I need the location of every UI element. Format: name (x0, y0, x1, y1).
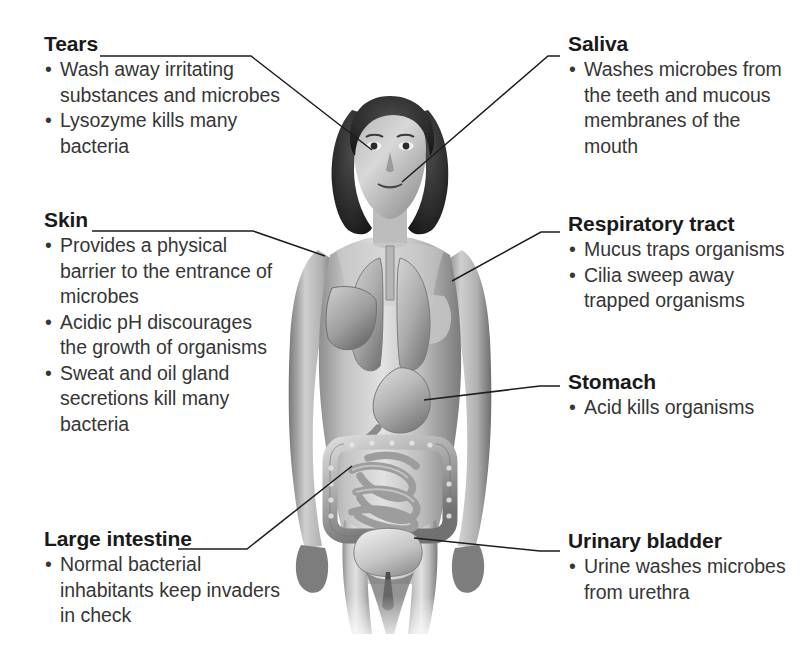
callout-bullets-respiratory-tract: •Mucus traps organisms •Cilia sweep away… (568, 237, 798, 314)
callout-bullets-tears: •Wash away irritating substances and mic… (44, 57, 294, 159)
bullet-glyph: • (569, 57, 576, 83)
bullet-item: •Cilia sweep away trapped organisms (568, 263, 798, 314)
bullet-glyph: • (569, 237, 576, 263)
bullet-item: •Washes microbes from the teeth and muco… (568, 57, 796, 159)
bullet-text: Provides a physical barrier to the entra… (60, 234, 272, 307)
callout-stomach: Stomach •Acid kills organisms (568, 371, 798, 421)
bullet-item: •Acidic pH discourages the growth of org… (44, 310, 279, 361)
bullet-item: •Lysozyme kills many bacteria (44, 108, 294, 159)
trachea (386, 246, 394, 300)
callout-title-respiratory-tract: Respiratory tract (568, 213, 798, 235)
bullet-text: Wash away irritating substances and micr… (60, 58, 280, 106)
callout-title-large-intestine: Large intestine (44, 528, 294, 550)
bullet-text: Urine washes microbes from urethra (584, 555, 786, 603)
callout-saliva: Saliva •Washes microbes from the teeth a… (568, 33, 796, 159)
bullet-item: •Acid kills organisms (568, 395, 798, 421)
callout-title-saliva: Saliva (568, 33, 796, 55)
bullet-text: Normal bacterial inhabitants keep invade… (60, 553, 280, 626)
bullet-glyph: • (569, 554, 576, 580)
callout-urinary-bladder: Urinary bladder •Urine washes microbes f… (568, 530, 796, 605)
bullet-text: Washes microbes from the teeth and mucou… (584, 58, 782, 157)
bullet-text: Acid kills organisms (584, 396, 754, 418)
hand-left (296, 545, 328, 593)
callout-bullets-skin: •Provides a physical barrier to the entr… (44, 233, 279, 437)
diagram-page: Tears •Wash away irritating substances a… (0, 0, 800, 670)
bullet-text: Mucus traps organisms (584, 238, 785, 260)
bullet-glyph: • (45, 361, 52, 387)
body-figure (270, 96, 530, 670)
urinary-bladder-organ (354, 528, 422, 576)
bullet-glyph: • (569, 395, 576, 421)
bullet-text: Cilia sweep away trapped organisms (584, 264, 745, 312)
bottom-fade (270, 596, 530, 670)
bullet-item: •Normal bacterial inhabitants keep invad… (44, 552, 294, 629)
bullet-text: Acidic pH discourages the growth of orga… (60, 311, 267, 359)
callout-bullets-large-intestine: •Normal bacterial inhabitants keep invad… (44, 552, 294, 629)
callout-respiratory-tract: Respiratory tract •Mucus traps organisms… (568, 213, 798, 314)
callout-bullets-saliva: •Washes microbes from the teeth and muco… (568, 57, 796, 159)
bullet-item: •Wash away irritating substances and mic… (44, 57, 294, 108)
bullet-glyph: • (45, 233, 52, 259)
bullet-glyph: • (45, 57, 52, 83)
callout-bullets-urinary-bladder: •Urine washes microbes from urethra (568, 554, 796, 605)
callout-large-intestine: Large intestine •Normal bacterial inhabi… (44, 528, 294, 629)
hand-right (452, 545, 484, 593)
bullet-glyph: • (569, 263, 576, 289)
callout-title-tears: Tears (44, 33, 294, 55)
bullet-item: •Urine washes microbes from urethra (568, 554, 796, 605)
callout-title-stomach: Stomach (568, 371, 798, 393)
bullet-glyph: • (45, 552, 52, 578)
bullet-text: Lysozyme kills many bacteria (60, 109, 237, 157)
bullet-text: Sweat and oil gland secretions kill many… (60, 362, 229, 435)
callout-title-urinary-bladder: Urinary bladder (568, 530, 796, 552)
bullet-item: •Mucus traps organisms (568, 237, 798, 263)
callout-skin: Skin •Provides a physical barrier to the… (44, 209, 279, 437)
bullet-item: •Provides a physical barrier to the entr… (44, 233, 279, 310)
callout-tears: Tears •Wash away irritating substances a… (44, 33, 294, 159)
bullet-glyph: • (45, 310, 52, 336)
bullet-glyph: • (45, 108, 52, 134)
callout-title-skin: Skin (44, 209, 279, 231)
bullet-item: •Sweat and oil gland secretions kill man… (44, 361, 279, 438)
callout-bullets-stomach: •Acid kills organisms (568, 395, 798, 421)
